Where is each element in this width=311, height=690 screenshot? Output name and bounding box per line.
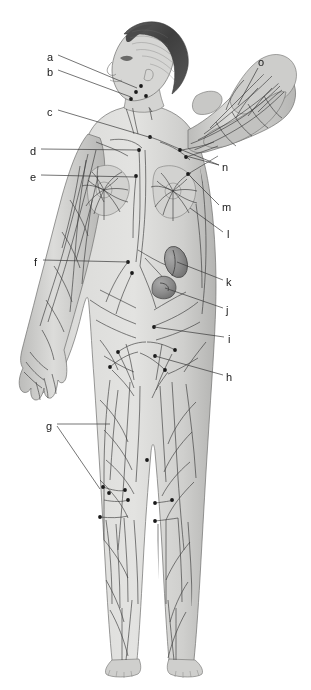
lymph-node	[123, 488, 127, 492]
lymph-node	[153, 501, 157, 505]
label-m: m	[222, 202, 231, 213]
lymph-node	[107, 491, 111, 495]
label-d: d	[30, 146, 36, 157]
lymph-node	[153, 519, 157, 523]
lymph-node	[170, 498, 174, 502]
lymph-node	[134, 90, 138, 94]
label-a: a	[47, 52, 53, 63]
lymph-node	[101, 485, 105, 489]
lymph-node	[130, 271, 134, 275]
label-j: j	[226, 305, 228, 316]
label-e: e	[30, 172, 36, 183]
cisterna-chyli-organ	[152, 276, 176, 299]
lymph-node	[178, 148, 182, 152]
label-c: c	[47, 107, 53, 118]
label-b: b	[47, 67, 53, 78]
label-o: o	[258, 57, 264, 68]
label-f: f	[34, 257, 37, 268]
lymph-node	[116, 350, 120, 354]
label-h: h	[226, 372, 232, 383]
lymph-node	[126, 498, 130, 502]
body-silhouette	[19, 22, 296, 678]
lymph-node	[145, 458, 149, 462]
label-i: i	[228, 334, 230, 345]
label-g: g	[46, 421, 52, 432]
lymph-node	[173, 348, 177, 352]
anatomical-illustration	[0, 0, 311, 690]
lymph-node	[129, 97, 133, 101]
lymph-node	[98, 515, 102, 519]
lymph-node	[144, 94, 148, 98]
lymphatic-system-figure-panel: a b c d e f g h i j k l m n o	[0, 0, 311, 690]
lymph-node	[163, 368, 167, 372]
label-k: k	[226, 277, 232, 288]
label-n: n	[222, 162, 228, 173]
leader-line-g2	[57, 426, 100, 489]
lymph-node	[108, 365, 112, 369]
lymph-node	[139, 84, 143, 88]
label-l: l	[227, 229, 229, 240]
lymph-node	[134, 174, 138, 178]
lymph-node	[184, 155, 188, 159]
